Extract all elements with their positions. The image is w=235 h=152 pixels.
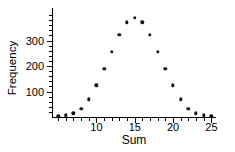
y-axis-minor-tick <box>49 86 52 87</box>
y-axis-minor-tick <box>49 35 52 36</box>
data-point <box>187 107 190 110</box>
y-axis-minor-tick <box>49 46 52 47</box>
data-point <box>133 16 136 19</box>
data-point <box>110 50 113 53</box>
x-axis-minor-tick <box>119 118 120 121</box>
data-point <box>156 50 159 53</box>
y-axis-minor-tick <box>49 25 52 26</box>
data-point <box>148 33 151 36</box>
data-point <box>125 21 128 24</box>
x-axis-tick-label: 20 <box>167 121 179 133</box>
data-point <box>194 112 197 115</box>
x-axis-minor-tick <box>142 118 143 121</box>
y-axis-minor-tick <box>49 81 52 82</box>
y-axis-minor-tick <box>49 30 52 31</box>
x-axis-minor-tick <box>181 118 182 121</box>
data-point <box>179 97 182 100</box>
x-axis-minor-tick <box>66 118 67 121</box>
x-axis-minor-tick <box>58 118 59 121</box>
y-axis-tick-label: 100 <box>14 86 44 98</box>
x-axis-minor-tick <box>81 118 82 121</box>
data-point <box>87 97 90 100</box>
y-axis-major-tick <box>47 66 52 67</box>
data-point <box>95 84 98 87</box>
y-axis-minor-tick <box>49 102 52 103</box>
y-axis-minor-tick <box>49 107 52 108</box>
y-axis-minor-tick <box>49 112 52 113</box>
y-axis-minor-tick <box>49 56 52 57</box>
y-axis-minor-tick <box>49 15 52 16</box>
x-axis-minor-tick <box>188 118 189 121</box>
x-axis-tick-label: 15 <box>129 121 141 133</box>
y-axis-line <box>52 8 53 118</box>
y-axis-tick-label: 300 <box>14 35 44 47</box>
x-axis-minor-tick <box>73 118 74 121</box>
y-axis-minor-tick <box>49 97 52 98</box>
data-point <box>72 112 75 115</box>
y-axis-minor-tick <box>49 51 52 52</box>
x-axis-tick-label: 10 <box>90 121 102 133</box>
y-axis-major-tick <box>47 92 52 93</box>
plot-area: 100200300 10152025 Frequency Sum <box>0 0 235 152</box>
data-point <box>102 67 105 70</box>
x-axis-tick-label: 25 <box>205 121 217 133</box>
data-point <box>141 21 144 24</box>
x-axis-minor-tick <box>158 118 159 121</box>
y-axis-minor-tick <box>49 76 52 77</box>
y-axis-major-tick <box>47 41 52 42</box>
x-axis-minor-tick <box>112 118 113 121</box>
data-point <box>118 33 121 36</box>
x-axis-title: Sum <box>52 133 216 147</box>
data-point <box>79 107 82 110</box>
data-point <box>171 84 174 87</box>
y-axis-minor-tick <box>49 61 52 62</box>
data-point <box>164 67 167 70</box>
x-axis-minor-tick <box>196 118 197 121</box>
x-axis-minor-tick <box>104 118 105 121</box>
y-axis-title: Frequency <box>6 31 18 105</box>
x-axis-minor-tick <box>150 118 151 121</box>
y-axis-minor-tick <box>49 20 52 21</box>
y-axis-tick-label: 200 <box>14 60 44 72</box>
frequency-distribution-chart: 100200300 10152025 Frequency Sum <box>0 0 235 152</box>
y-axis-minor-tick <box>49 71 52 72</box>
